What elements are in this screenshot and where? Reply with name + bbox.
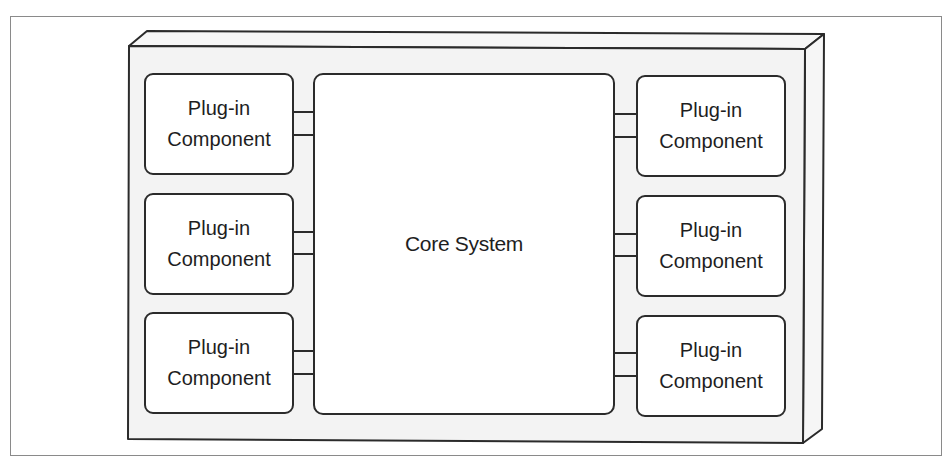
plugin-component-right-2: Plug-in Component [636,195,786,297]
plugin-component-right-1: Plug-in Component [636,75,786,177]
connector [292,253,314,255]
connector [614,255,637,257]
connector [614,233,637,235]
plugin-label-line2: Component [167,244,270,275]
plugin-component-left-3: Plug-in Component [144,312,294,414]
connector [614,352,637,354]
plugin-label-line1: Plug-in [167,332,270,363]
connector [614,136,637,138]
plugin-component-left-2: Plug-in Component [144,193,294,295]
plugin-component-right-3: Plug-in Component [636,315,786,417]
plugin-label-line1: Plug-in [167,213,270,244]
connector [292,134,314,136]
plugin-label-line1: Plug-in [659,215,762,246]
core-system-label: Core System [405,232,523,256]
plugin-label-line2: Component [659,366,762,397]
plugin-label-line2: Component [167,124,270,155]
plugin-label-line2: Component [167,363,270,394]
connector [614,375,637,377]
connector [292,373,314,375]
connector [292,350,314,352]
plugin-component-left-1: Plug-in Component [144,73,294,175]
core-system-box: Core System [313,73,615,415]
plugin-label-line1: Plug-in [167,93,270,124]
plugin-label-line1: Plug-in [659,95,762,126]
plugin-label-line1: Plug-in [659,335,762,366]
plugin-label-line2: Component [659,126,762,157]
connector [292,111,314,113]
plugin-label-line2: Component [659,246,762,277]
connector [292,231,314,233]
connector [614,113,637,115]
